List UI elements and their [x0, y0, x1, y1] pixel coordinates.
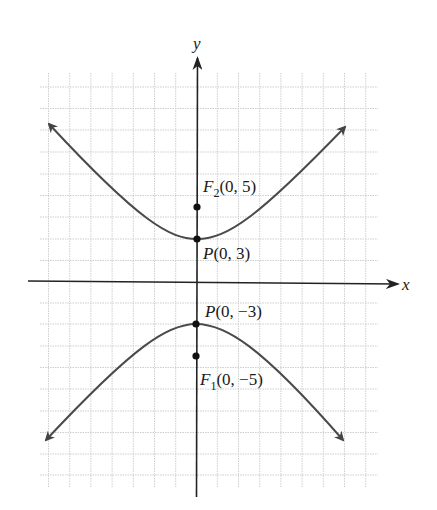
focus-f1-point: [192, 352, 199, 359]
grid: [40, 73, 378, 487]
hyperbola-diagram: y x F2(0, 5) P(0, 3) P(0, −3) F1(0, −5): [0, 0, 437, 510]
y-axis-label: y: [191, 34, 201, 53]
x-axis-label: x: [401, 275, 410, 294]
upper-branch-curve-left: [49, 124, 197, 239]
vertex-top-point: [193, 235, 200, 242]
focus-f2-point: [193, 203, 200, 210]
vertex-bottom-point: [192, 320, 199, 327]
x-axis: [28, 281, 398, 284]
focus-f1-label: F1(0, −5): [199, 370, 263, 393]
lower-branch-curve-left: [46, 324, 196, 440]
vertex-top-label: P(0, 3): [202, 244, 250, 263]
focus-f2-label: F2(0, 5): [202, 177, 256, 200]
vertex-bottom-label: P(0, −3): [204, 302, 262, 321]
y-axis: [197, 58, 198, 497]
